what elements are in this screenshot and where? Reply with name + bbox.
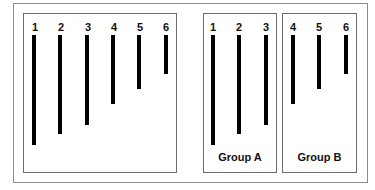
- group-b-bar-label-4: 4: [286, 22, 300, 33]
- group-a-bar-1: [211, 35, 215, 145]
- bar-label-1: 1: [28, 22, 42, 33]
- group-b-bar-label-6: 6: [339, 22, 353, 33]
- bar-5: [137, 35, 141, 89]
- bar-label-5: 5: [133, 22, 147, 33]
- group-a-bar-label-3: 3: [259, 22, 273, 33]
- bar-4: [111, 35, 115, 104]
- group-a-bar-label-2: 2: [232, 22, 246, 33]
- group-b-label: Group B: [282, 151, 357, 163]
- panel-all-bars: [23, 13, 177, 173]
- group-b-bar-5: [317, 35, 321, 89]
- bar-label-2: 2: [54, 22, 68, 33]
- bar-label-3: 3: [81, 22, 95, 33]
- group-b-bar-4: [291, 35, 295, 104]
- bar-label-6: 6: [159, 22, 173, 33]
- bar-3: [85, 35, 89, 125]
- bar-label-4: 4: [107, 22, 121, 33]
- group-a-bar-2: [237, 35, 241, 134]
- group-a-label: Group A: [203, 151, 277, 163]
- bar-6: [164, 35, 168, 74]
- group-a-bar-label-1: 1: [206, 22, 220, 33]
- bar-2: [58, 35, 62, 134]
- group-b-bar-6: [344, 35, 348, 74]
- group-a-bar-3: [264, 35, 268, 125]
- group-b-bar-label-5: 5: [312, 22, 326, 33]
- bar-1: [32, 35, 36, 145]
